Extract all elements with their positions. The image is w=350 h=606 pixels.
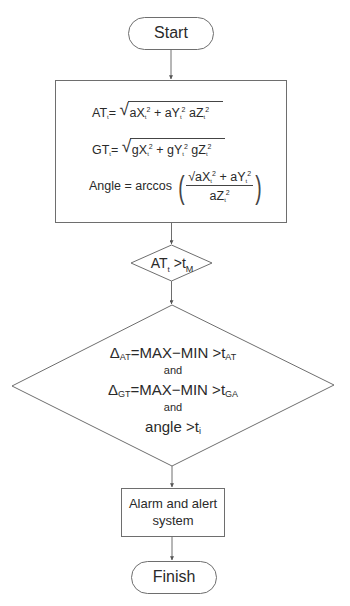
threshold-sub: i [199, 426, 201, 436]
sqrt-symbol: √ [122, 138, 131, 155]
term-ax: aX [195, 170, 210, 184]
term-gx: gX [132, 143, 147, 157]
sub: t [224, 197, 226, 203]
term-ay: + aY [219, 170, 245, 184]
sup: 2 [247, 170, 251, 177]
alarm-label-line2: system [121, 512, 225, 529]
and-label-1: and [73, 364, 273, 376]
and-label-2: and [73, 401, 273, 413]
threshold-sub: GA [225, 389, 238, 399]
term-gz: gZ [191, 143, 206, 157]
sup: 2 [208, 143, 212, 150]
sub: t [210, 178, 212, 184]
formula-at-eq: = [109, 106, 116, 120]
term-az: aZ [210, 189, 225, 203]
condition-expr: =MAX−MIN >t [130, 381, 225, 398]
angle-denominator: aZt2 [186, 186, 253, 203]
alarm-box-label: Alarm and alert system [121, 495, 225, 529]
formula-gt-eq: = [111, 143, 118, 157]
threshold-sub: AT [225, 352, 236, 362]
sub: t [182, 151, 184, 157]
formula-gt-sqrt: √ gXt2 + gYt2 gZt2 [122, 141, 212, 157]
sqrt-bar [128, 101, 224, 102]
condition-angle: angle >ti [73, 419, 273, 436]
formula-angle: Angle = arccos ( √aXt2 + aYt2 aZt2 ) [89, 170, 264, 203]
sub: t [204, 114, 206, 120]
sup: 2 [149, 143, 153, 150]
sub: t [206, 151, 208, 157]
threshold-decision-label: ATt >tM [131, 254, 213, 279]
formula-at-sqrt: √ aXt2 + aYt2 aZt2 [120, 104, 210, 120]
formula-gt: GTt= √ gXt2 + gYt2 gZt2 [92, 141, 211, 157]
sub: t [147, 151, 149, 157]
threshold-lhs: AT [151, 255, 168, 271]
sup: 2 [146, 106, 150, 113]
threshold-op: >t [170, 255, 186, 271]
term-ay: + aY [154, 106, 180, 120]
threshold-rhs-sub: M [186, 264, 194, 274]
sub: t [245, 178, 247, 184]
term-az: aZ [189, 106, 204, 120]
sup: 2 [205, 106, 209, 113]
start-label: Start [128, 17, 214, 49]
sup: 2 [184, 143, 188, 150]
term-gy: + gY [156, 143, 182, 157]
delta-symbol: Δ [108, 381, 118, 398]
sup: 2 [212, 170, 216, 177]
angle-numerator: √aXt2 + aYt2 [186, 170, 253, 186]
right-paren: ) [255, 171, 261, 203]
sup: 2 [182, 106, 186, 113]
delta-sub: GT [118, 389, 131, 399]
sqrt-symbol: √ [120, 101, 129, 118]
condition-expr: angle >t [145, 418, 199, 435]
condition-expr: =MAX−MIN >t [131, 344, 226, 361]
sup: 2 [226, 189, 230, 196]
condition-delta-at: ΔAT=MAX−MIN >tAT [73, 345, 273, 362]
left-paren: ( [178, 171, 184, 203]
delta-symbol: Δ [110, 344, 120, 361]
delta-sub: AT [120, 352, 131, 362]
sub: t [180, 114, 182, 120]
formula-at-lhs: AT [92, 106, 107, 120]
formula-at: ATt= √ aXt2 + aYt2 aZt2 [92, 104, 209, 120]
sub: t [145, 114, 147, 120]
angle-fraction: √aXt2 + aYt2 aZt2 [186, 170, 253, 203]
formula-angle-lhs: Angle = arccos [89, 179, 172, 193]
finish-label: Finish [131, 561, 217, 593]
term-ax: aX [130, 106, 145, 120]
condition-delta-gt: ΔGT=MAX−MIN >tGA [73, 382, 273, 399]
alarm-label-line1: Alarm and alert [121, 495, 225, 512]
sqrt-bar [130, 138, 226, 139]
formula-gt-lhs: GT [92, 143, 109, 157]
